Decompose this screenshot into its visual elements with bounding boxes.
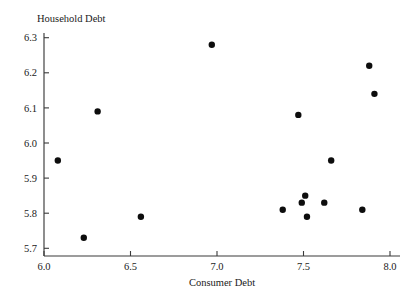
data-point <box>328 157 334 163</box>
y-axis-ticks <box>44 38 49 249</box>
data-point <box>321 199 327 205</box>
y-axis-tick-label: 5.7 <box>24 243 37 254</box>
y-axis-tick-labels: 5.75.85.96.06.16.26.3 <box>24 32 37 254</box>
data-point <box>55 157 61 163</box>
x-axis-ticks <box>44 251 390 256</box>
y-axis-tick-label: 6.1 <box>24 103 37 114</box>
y-axis-tick-label: 6.0 <box>24 138 37 149</box>
y-axis-tick-label: 5.8 <box>24 208 37 219</box>
x-axis-tick-label: 6.0 <box>37 261 50 272</box>
x-axis-tick-label: 7.0 <box>210 261 223 272</box>
data-point <box>302 192 308 198</box>
scatter-chart-figure: Household Debt 5.75.85.96.06.16.26.3 6.0… <box>0 0 415 300</box>
y-axis-title-text: Household Debt <box>37 13 106 24</box>
data-point <box>209 42 215 48</box>
data-point <box>366 63 372 69</box>
data-point <box>138 214 144 220</box>
data-point <box>280 206 286 212</box>
data-point <box>81 235 87 241</box>
x-axis-tick-labels: 6.06.57.07.58.0 <box>37 261 396 272</box>
data-point <box>299 199 305 205</box>
x-axis-tick-label: 6.5 <box>124 261 137 272</box>
data-point <box>304 214 310 220</box>
data-point <box>359 206 365 212</box>
y-axis-title: Household Debt <box>37 13 106 24</box>
x-axis-tick-label: 8.0 <box>383 261 396 272</box>
data-point <box>371 91 377 97</box>
x-axis-title: Consumer Debt <box>189 277 255 288</box>
data-point <box>295 112 301 118</box>
scatter-plot: Household Debt 5.75.85.96.06.16.26.3 6.0… <box>0 0 415 300</box>
x-axis-tick-label: 7.5 <box>297 261 310 272</box>
y-axis-tick-label: 6.3 <box>24 32 37 43</box>
y-axis-tick-label: 6.2 <box>24 67 37 78</box>
x-axis-title-text: Consumer Debt <box>189 277 255 288</box>
y-axis-tick-label: 5.9 <box>24 173 37 184</box>
data-points-layer <box>55 42 378 241</box>
data-point <box>94 108 100 114</box>
